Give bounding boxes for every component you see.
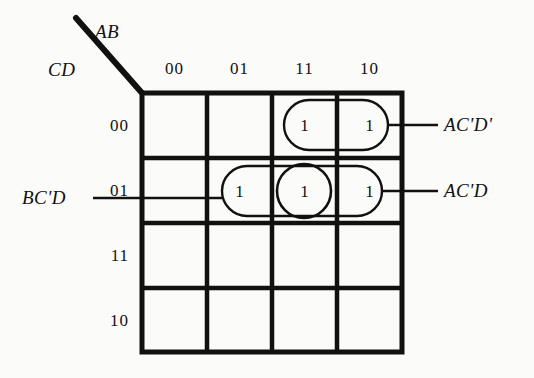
row-header-10: 10 — [95, 312, 129, 329]
cell-value-r00-c10: 1 — [337, 117, 402, 134]
column-header-11: 11 — [272, 60, 337, 77]
cell-value-r01-c10: 1 — [337, 183, 402, 200]
cell-value-r00-c11: 1 — [272, 117, 337, 134]
column-header-10: 10 — [337, 60, 402, 77]
row-header-11: 11 — [95, 247, 129, 264]
axis-label-cd: CD — [48, 60, 75, 79]
row-header-01: 01 — [95, 182, 129, 199]
column-header-01: 01 — [207, 60, 272, 77]
group-label-ac-d-prime: AC'D' — [444, 115, 493, 134]
group-label-bc-d: BC'D — [22, 188, 66, 207]
column-header-00: 00 — [142, 60, 207, 77]
axis-label-ab: AB — [95, 22, 119, 41]
cell-value-r01-c11: 1 — [272, 183, 337, 200]
row-header-00: 00 — [95, 117, 129, 134]
karnaugh-map-diagram: AB CD 00 01 11 10 00 01 11 10 1 1 1 1 1 … — [0, 0, 534, 378]
cell-value-r01-c01: 1 — [207, 183, 272, 200]
group-label-ac-d: AC'D — [444, 181, 488, 200]
